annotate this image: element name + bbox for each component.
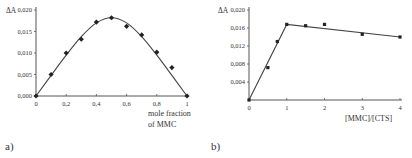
y-tick-label: 0,016	[230, 24, 245, 31]
x-tick-label: 4	[398, 104, 402, 111]
fit-line	[249, 24, 400, 100]
x-tick-label: 0,8	[153, 100, 161, 107]
panel-label-a: a)	[5, 140, 14, 153]
y-axis-label-b: ΔA	[218, 6, 229, 15]
x-tick-label: 0	[247, 104, 250, 111]
y-tick-label: 0,000	[17, 92, 32, 99]
data-point	[361, 33, 364, 36]
y-tick-label: 0,012	[230, 42, 245, 49]
chart-panel-a: 0,0000,0050,0100,0150,02000,20,40,60,81	[17, 6, 189, 107]
data-point	[266, 66, 269, 69]
y-tick-label: 0,015	[17, 28, 32, 35]
y-tick-label: 0,020	[230, 6, 245, 13]
data-point	[154, 50, 159, 55]
y-tick-label: 0,004	[230, 78, 245, 85]
y-tick-label: 0,005	[17, 71, 32, 78]
data-point	[64, 50, 69, 55]
y-tick-label: 0,008	[230, 60, 245, 67]
x-tick-label: 2	[323, 104, 326, 111]
chart-panel-b: 0,0040,0080,0120,0160,02001234	[230, 6, 402, 111]
y-axis-label-a: ΔA	[6, 6, 17, 15]
fit-curve	[36, 18, 187, 96]
x-tick-label: 0,2	[62, 100, 70, 107]
figure: 0,0000,0050,0100,0150,02000,20,40,60,81 …	[0, 0, 412, 158]
data-point	[398, 35, 401, 38]
y-tick-label: 0,010	[17, 49, 32, 56]
data-point	[247, 98, 250, 101]
data-point	[323, 23, 326, 26]
x-tick-label: 1	[185, 100, 188, 107]
data-point	[139, 32, 144, 37]
data-point	[276, 40, 279, 43]
x-tick-label: 0,4	[92, 100, 101, 107]
data-point	[109, 15, 114, 20]
data-point	[169, 65, 174, 70]
data-point	[285, 23, 288, 26]
x-tick-label: 0	[34, 100, 37, 107]
x-axis-label-b: [MMC]/[CTS]	[345, 114, 392, 123]
x-axis-label-a-line2: of MMC	[148, 120, 176, 129]
panel-label-b: b)	[211, 140, 221, 153]
x-axis-label-a-line1: mole fraction	[148, 109, 191, 118]
y-tick-label: 0,020	[17, 6, 32, 13]
data-point	[304, 24, 307, 27]
data-point	[79, 37, 84, 42]
x-tick-label: 0,6	[123, 100, 132, 107]
x-tick-label: 3	[361, 104, 364, 111]
x-tick-label: 1	[285, 104, 288, 111]
